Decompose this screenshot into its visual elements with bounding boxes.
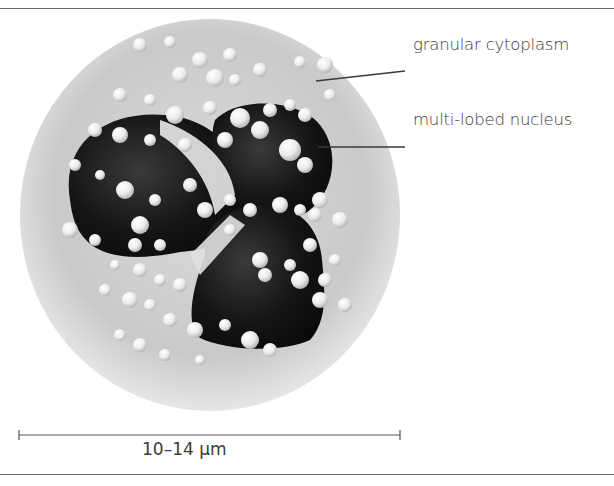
granule [251, 121, 269, 139]
granule [263, 103, 277, 117]
granule [195, 355, 205, 365]
granule [114, 329, 126, 341]
granule [192, 52, 208, 68]
granule [88, 123, 102, 137]
granule [116, 181, 134, 199]
cell-illustration [0, 0, 614, 486]
granule [110, 260, 120, 270]
granule [284, 259, 296, 271]
granule [329, 254, 341, 266]
granule [338, 298, 352, 312]
granule [144, 299, 156, 311]
granule [279, 139, 301, 161]
granule [253, 63, 267, 77]
granule [263, 343, 277, 357]
granule [243, 203, 257, 217]
granule [224, 224, 236, 236]
granule [318, 273, 332, 287]
granule [241, 331, 259, 349]
granule [144, 134, 156, 146]
granule [163, 313, 177, 327]
granule [291, 271, 309, 289]
granule [224, 194, 236, 206]
granule [62, 222, 78, 238]
granule [154, 239, 166, 251]
granule [303, 238, 317, 252]
granule [332, 212, 348, 228]
scale-bar-label: 10–14 μm [142, 439, 227, 459]
granule [294, 56, 306, 68]
granule [312, 192, 328, 208]
granule [178, 138, 192, 152]
granule [252, 252, 268, 268]
granule [164, 36, 176, 48]
granule [166, 106, 184, 124]
label-granular-cytoplasm: granular cytoplasm [413, 35, 569, 54]
granule [154, 274, 166, 286]
granule [122, 292, 138, 308]
granule [203, 101, 217, 115]
granule [217, 132, 233, 148]
granule [159, 349, 171, 361]
granule [219, 319, 231, 331]
label-multi-lobed-nucleus: multi-lobed nucleus [413, 110, 572, 129]
granule [131, 216, 149, 234]
granule [69, 159, 81, 171]
granule [229, 74, 241, 86]
granule [312, 292, 328, 308]
granule [133, 263, 147, 277]
granule [113, 88, 127, 102]
granule [298, 108, 312, 122]
granule [284, 99, 296, 111]
granule [197, 202, 213, 218]
granule [324, 89, 336, 101]
granule [149, 194, 161, 206]
granule [206, 69, 224, 87]
granule [172, 67, 188, 83]
granule [95, 170, 105, 180]
granule [112, 127, 128, 143]
granule [144, 94, 156, 106]
granule [89, 234, 101, 246]
granule [223, 48, 237, 62]
granule [187, 322, 203, 338]
granule [308, 208, 322, 222]
granule [272, 197, 288, 213]
granule [294, 204, 306, 216]
granule [317, 57, 333, 73]
granule [133, 338, 147, 352]
granule [297, 157, 313, 173]
granule [99, 284, 111, 296]
granule [128, 238, 142, 252]
granule [183, 178, 197, 192]
granule [173, 278, 187, 292]
granule [258, 268, 272, 282]
granule [230, 108, 250, 128]
granule [133, 38, 147, 52]
